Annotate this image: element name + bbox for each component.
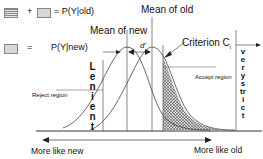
criterion-label: Criterion Ci [182, 38, 231, 50]
lenient-label: Lenient [89, 62, 99, 132]
hatched-tail-region [110, 47, 232, 130]
criterion-subscript: i [230, 44, 231, 50]
mean-of-new-label: Mean of new [90, 26, 147, 36]
d-prime-arrow-left [128, 49, 134, 55]
reject-region-label: Reject region [32, 92, 67, 98]
very-strict-text: verystrict [240, 48, 246, 120]
lenient-text: Lenient [89, 62, 96, 132]
accept-region-label: Accept region [195, 74, 232, 80]
right-arrow-head [205, 137, 212, 143]
criterion-text: Criterion C [182, 37, 230, 48]
more-like-old-label: More like old [194, 146, 242, 155]
strict-arrow-head [256, 43, 261, 47]
criterion-arrow-head [164, 51, 172, 58]
signal-detection-diagram: + = P(Y|old) = P(Y|new) [0, 0, 263, 159]
old-distribution-curve [90, 47, 235, 130]
very-strict-label: verystrict [240, 48, 248, 120]
mean-of-old-label: Mean of old [141, 5, 193, 15]
d-prime-label: d' [140, 42, 146, 50]
left-arrow-head [42, 137, 49, 143]
more-like-new-label: More like new [31, 147, 83, 156]
